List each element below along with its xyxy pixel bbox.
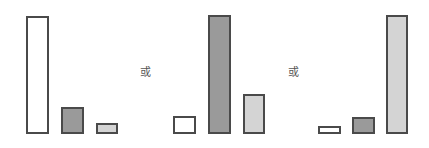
bar-group3-white [318, 126, 341, 134]
bar-group1-light [96, 123, 118, 134]
separator-or-2: 或 [288, 67, 299, 79]
bar-group3-dark [352, 117, 375, 134]
bar-group3-light [386, 15, 408, 134]
bar-group1-white [26, 16, 49, 134]
bar-group2-white [173, 116, 196, 134]
bar-group2-light [243, 94, 265, 134]
bar-group2-dark [208, 15, 231, 134]
separator-or-1: 或 [140, 67, 151, 79]
bar-group1-dark [61, 107, 84, 134]
